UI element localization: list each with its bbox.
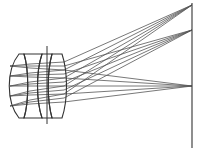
light-ray bbox=[10, 30, 192, 76]
ray-trace-diagram bbox=[0, 0, 197, 150]
light-ray bbox=[10, 5, 192, 76]
light-ray bbox=[10, 30, 192, 66]
